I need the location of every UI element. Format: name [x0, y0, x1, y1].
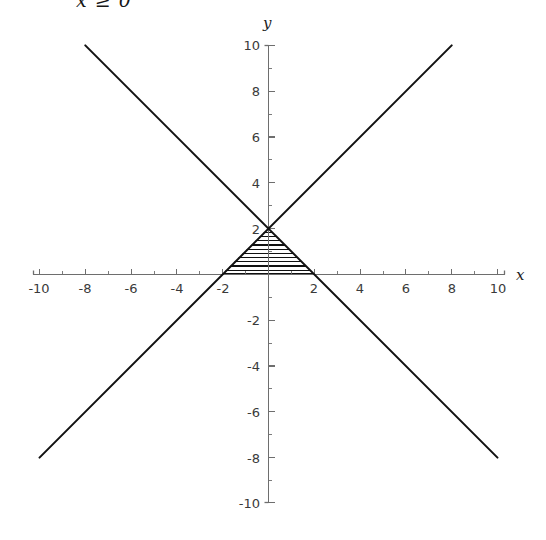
x-tick-label: -2	[217, 281, 230, 296]
y-tick-label: -10	[222, 496, 260, 511]
x-tick-label: -4	[171, 281, 184, 296]
x-tick-label: 2	[310, 281, 318, 296]
y-tick-label: -8	[230, 451, 260, 466]
x-tick-label: -8	[79, 281, 92, 296]
x-tick-label: 8	[448, 281, 456, 296]
y-tick-label: 6	[236, 130, 260, 145]
y-axis-label: y	[263, 14, 271, 32]
x-tick-label: 6	[402, 281, 410, 296]
line-y-eq-x-plus-2	[40, 45, 452, 457]
y-tick-label: 4	[236, 176, 260, 191]
y-tick-label: -2	[230, 313, 260, 328]
line-y-eq-neg-x-plus-2	[85, 45, 497, 457]
x-tick-label: -10	[28, 281, 49, 296]
coordinate-plot	[0, 0, 546, 540]
x-tick-label: 4	[356, 281, 364, 296]
x-tick-label: 10	[490, 281, 507, 296]
y-tick-label: 2	[236, 222, 260, 237]
plot-figure: x ≥ 0	[0, 0, 546, 540]
x-tick-label: -6	[125, 281, 138, 296]
y-tick-label: -4	[230, 359, 260, 374]
x-axis-label: x	[516, 266, 524, 284]
y-tick-label: 8	[236, 84, 260, 99]
y-tick-label: -6	[230, 405, 260, 420]
y-tick-label: 10	[236, 38, 260, 53]
